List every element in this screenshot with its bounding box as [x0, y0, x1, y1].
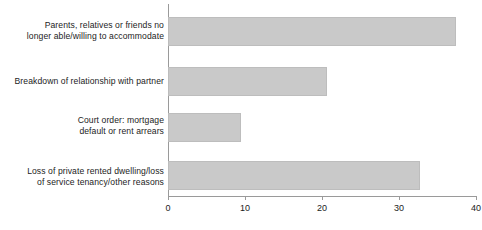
x-tick-0 [168, 196, 169, 200]
x-tick-30 [399, 196, 400, 200]
x-tick-label-20: 20 [317, 203, 327, 213]
x-tick-label-0: 0 [165, 203, 170, 213]
category-label-2: Breakdown of relationship with partner [0, 76, 164, 87]
x-tick-label-30: 30 [394, 203, 404, 213]
bar-4 [168, 161, 420, 190]
x-tick-40 [476, 196, 477, 200]
bar-2 [168, 67, 327, 96]
x-tick-10 [245, 196, 246, 200]
bar-3 [168, 113, 241, 142]
plot-area [168, 0, 476, 196]
x-tick-20 [322, 196, 323, 200]
category-label-1: Parents, relatives or friends no longer … [0, 20, 164, 43]
category-label-3: Court order: mortgage default or rent ar… [0, 115, 164, 138]
bar-1 [168, 17, 456, 46]
x-tick-label-40: 40 [471, 203, 481, 213]
x-tick-label-10: 10 [240, 203, 250, 213]
bar-chart: Parents, relatives or friends no longer … [0, 0, 482, 230]
category-label-4: Loss of private rented dwelling/loss of … [0, 166, 164, 189]
